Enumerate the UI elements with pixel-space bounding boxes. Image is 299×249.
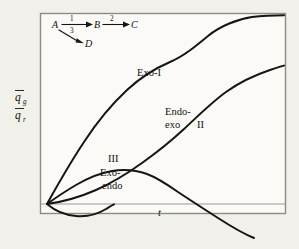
label-exo-endo-line1: Exo- bbox=[100, 167, 121, 178]
y-axis-numerator-symbol: q bbox=[15, 91, 21, 104]
scheme-species-a: A bbox=[51, 19, 59, 30]
scheme-species-d: D bbox=[84, 38, 93, 49]
y-axis-denominator-symbol: q bbox=[15, 109, 21, 122]
scheme-step-1-label: 1 bbox=[70, 15, 74, 23]
scheme-species-b: B bbox=[94, 19, 100, 30]
scheme-species-c: C bbox=[131, 19, 138, 30]
label-endo-exo-line2: exo bbox=[165, 119, 180, 130]
label-exo-i: Exo-I bbox=[137, 67, 161, 78]
y-axis-denominator-subscript: r bbox=[23, 116, 26, 124]
figure-container: A 1 3 B 2 C D q g q r Exo-I En bbox=[0, 0, 299, 249]
scheme-step-3-label: 3 bbox=[70, 27, 74, 35]
label-exo-endo-line2: endo bbox=[102, 180, 122, 191]
y-axis-numerator-subscript: g bbox=[23, 98, 27, 106]
label-roman-ii: II bbox=[197, 119, 204, 130]
scheme-step-2-label: 2 bbox=[110, 15, 114, 23]
label-roman-iii: III bbox=[108, 153, 119, 164]
label-endo-exo-line1: Endo- bbox=[165, 106, 191, 117]
